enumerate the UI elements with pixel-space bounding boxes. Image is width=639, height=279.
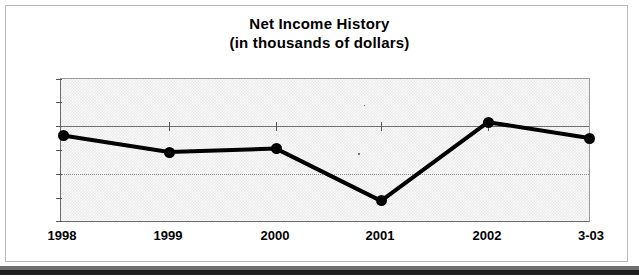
data-point-2001 [376,195,387,206]
data-point-3-03 [584,133,595,144]
scan-speck [364,105,365,106]
data-point-1999 [164,147,175,158]
data-point-1998 [58,130,69,141]
xtick-label-1998: 1998 [17,228,107,243]
chart-title-line1: Net Income History [249,15,389,32]
data-point-2002 [483,117,494,128]
scanned-page: Net Income History (in thousands of doll… [0,0,639,279]
scan-edge-band [0,270,639,275]
net-income-line-series [61,79,591,223]
xtick-label-2002: 2002 [442,228,532,243]
chart-title: Net Income History (in thousands of doll… [0,14,639,52]
data-point-2000 [271,143,282,154]
series-line [63,122,589,201]
xtick-label-2001: 2001 [335,228,425,243]
xtick-label-2000: 2000 [230,228,320,243]
scan-speck [358,153,360,155]
xtick-label-1999: 1999 [123,228,213,243]
chart-title-line2: (in thousands of dollars) [0,33,639,52]
xtick-label-3-03: 3-03 [546,228,636,243]
plot-area: 500 0 -500 -1000 [60,78,590,222]
